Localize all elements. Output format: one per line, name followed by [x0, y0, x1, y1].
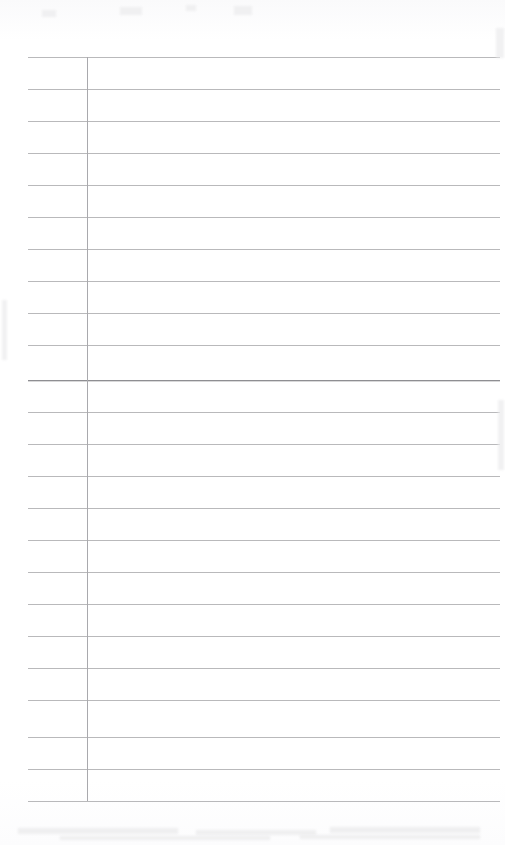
scan-smudge [196, 830, 316, 835]
scan-speck [120, 7, 142, 15]
scan-speck [2, 300, 7, 360]
scanned-page [0, 0, 505, 845]
scan-speck [496, 28, 504, 58]
scan-smudge [300, 835, 480, 839]
margin-column[interactable] [28, 57, 87, 801]
rule-line [28, 801, 500, 802]
scan-smudge [18, 828, 178, 834]
scan-smudge [330, 827, 480, 833]
scan-speck [42, 10, 56, 17]
scan-smudge [60, 836, 270, 840]
scan-speck [186, 5, 196, 11]
writing-area[interactable] [88, 57, 500, 801]
scan-speck [234, 6, 252, 15]
